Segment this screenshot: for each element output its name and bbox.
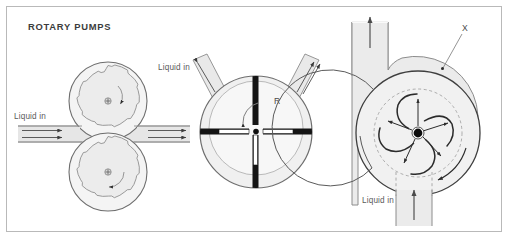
centrifugal-impeller-label: X [462, 23, 468, 33]
vane-bottom-slot [253, 135, 257, 165]
vane-left-slot [219, 129, 249, 133]
centrifugal-discharge-pipe [352, 17, 388, 76]
page-title: ROTARY PUMPS [28, 21, 111, 32]
gear-pump-inlet-label: Liquid in [14, 112, 46, 121]
diagram-canvas: ROTARY PUMPS [0, 0, 508, 238]
vane-top [253, 72, 259, 125]
rotary-pumps-figure: ROTARY PUMPS [0, 0, 508, 238]
impeller-hub [414, 129, 423, 138]
centrifugal-suction-pipe [396, 190, 432, 226]
vane-right-slot [263, 129, 293, 133]
vane-pump-hub [253, 129, 259, 135]
centrifugal-inlet-label: Liquid in [362, 196, 394, 205]
vane-pump-inlet-label: Liquid in [158, 63, 190, 72]
